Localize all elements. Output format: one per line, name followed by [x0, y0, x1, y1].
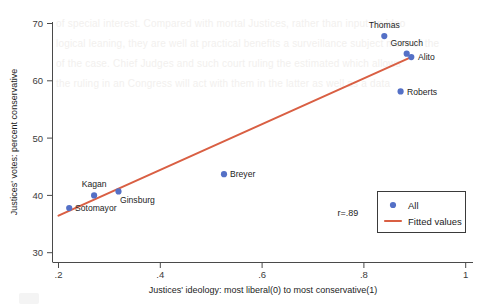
x-tick-label-0.6: .6 — [258, 269, 266, 280]
data-point-label-gorsuch: Gorsuch — [390, 38, 423, 48]
y-tick-label-60: 60 — [32, 75, 43, 86]
legend: All Fitted values — [378, 192, 466, 233]
y-tick-label-30: 30 — [32, 247, 43, 258]
data-point-label-breyer: Breyer — [230, 169, 255, 179]
data-point-thomas[interactable]: Thomas — [369, 20, 400, 39]
fitted-values-line — [59, 57, 412, 216]
legend-label-fitted-values[interactable]: Fitted values — [408, 216, 462, 227]
y-axis-title: Justices' votes: percent conservative — [9, 69, 19, 215]
x-tick-label-0.2: .2 — [55, 269, 63, 280]
x-tick-label-1.0: 1 — [463, 269, 468, 280]
x-axis-title: Justices' ideology: most liberal(0) to m… — [149, 285, 377, 295]
data-point-label-thomas: Thomas — [369, 20, 400, 30]
data-point-breyer[interactable]: Breyer — [221, 169, 256, 179]
legend-marker-all — [390, 202, 396, 208]
plot-area: 70 60 50 40 30 Justices' votes: percent … — [0, 0, 485, 308]
data-point-label-alito: Alito — [418, 52, 435, 62]
x-tick-label-0.8: .8 — [360, 269, 368, 280]
data-point-roberts[interactable]: Roberts — [398, 87, 438, 97]
y-tick-label-70: 70 — [32, 18, 43, 29]
data-point-label-ginsburg: Ginsburg — [120, 195, 155, 205]
x-tick-label-0.4: .4 — [156, 269, 164, 280]
legend-label-all[interactable]: All — [408, 200, 419, 211]
data-point-label-sotomayor: Sotomayor — [75, 203, 117, 213]
scan-artifact — [19, 293, 39, 304]
data-point-label-kagan: Kagan — [82, 179, 107, 189]
y-tick-label-50: 50 — [32, 133, 43, 144]
y-tick-label-40: 40 — [32, 190, 43, 201]
scatter-chart: of special interest. Compared with morta… — [0, 0, 485, 308]
data-point-label-roberts: Roberts — [407, 87, 437, 97]
correlation-annotation: r=.89 — [338, 208, 359, 218]
data-point-alito[interactable]: Alito — [408, 52, 435, 62]
data-point-ginsburg[interactable]: Ginsburg — [115, 188, 155, 205]
